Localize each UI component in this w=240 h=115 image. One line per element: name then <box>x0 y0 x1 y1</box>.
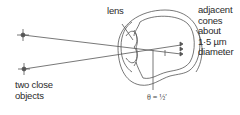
cones-label: adjacent cones about 1·5 µm diameter <box>198 5 233 58</box>
cones-label-line: diameter <box>198 47 233 58</box>
cone-2 <box>180 47 183 51</box>
angle-label: θ = ½′ <box>147 93 167 102</box>
upper-object-icon <box>17 29 29 41</box>
ray-lower <box>24 45 181 69</box>
objects-label: two close objects <box>15 80 53 101</box>
lower-object-icon <box>18 63 30 75</box>
cone-3 <box>180 52 183 56</box>
iris <box>126 31 137 63</box>
lens-label: lens <box>107 6 124 17</box>
cones-label-line: about <box>198 26 233 37</box>
objects-label-line: two close <box>15 80 53 91</box>
objects-label-line: objects <box>15 91 53 102</box>
ray-upper <box>23 35 181 54</box>
cone-1 <box>180 42 183 46</box>
cones-label-line: adjacent <box>198 5 233 16</box>
